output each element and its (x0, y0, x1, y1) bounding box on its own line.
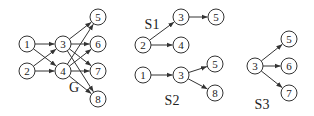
node-label: 3 (178, 11, 184, 23)
node-label: 3 (252, 60, 258, 72)
node-label: 3 (178, 69, 184, 81)
node-label: 5 (286, 33, 292, 45)
node-label: 3 (60, 38, 66, 50)
node-label: 5 (213, 11, 219, 23)
node-label: 4 (178, 39, 184, 51)
node-label: 4 (60, 65, 66, 77)
node-g-3: 3 (55, 36, 71, 52)
graph-g: 12345678G (19, 9, 106, 107)
node-label: 5 (212, 58, 218, 70)
node-g-2: 2 (19, 63, 35, 79)
graph-diagram: 12345678G 2345S1 1358S2 3567S3 (0, 0, 314, 116)
graph-label-g: G (69, 80, 79, 95)
edge-s3-3-5 (261, 44, 282, 61)
edge-g-3-5 (69, 22, 91, 39)
node-g-6: 6 (90, 36, 106, 52)
node-label: 5 (95, 11, 101, 23)
node-label: 2 (24, 65, 30, 77)
node-g-7: 7 (90, 63, 106, 79)
node-s3-7: 7 (281, 85, 297, 101)
node-label: 8 (95, 93, 101, 105)
node-label: 2 (140, 39, 146, 51)
subgraph-s1: 2345S1 (135, 9, 224, 53)
graph-label-s3: S3 (255, 97, 270, 112)
edge-s3-3-7 (261, 71, 282, 88)
node-label: 6 (286, 60, 292, 72)
node-s2-3: 3 (173, 67, 189, 83)
diagram-canvas: 12345678G 2345S1 1358S2 3567S3 (0, 0, 314, 116)
subgraph-s3: 3567S3 (247, 31, 297, 112)
node-g-8: 8 (90, 91, 106, 107)
node-label: 7 (95, 65, 101, 77)
node-label: 1 (140, 69, 146, 81)
node-label: 8 (212, 87, 218, 99)
node-g-1: 1 (19, 36, 35, 52)
node-s3-6: 6 (281, 58, 297, 74)
node-s1-3: 3 (173, 9, 189, 25)
graph-label-s1: S1 (145, 17, 160, 32)
node-s3-3: 3 (247, 58, 263, 74)
node-s3-5: 5 (281, 31, 297, 47)
edge-s2-3-5 (189, 67, 207, 73)
node-s1-4: 4 (173, 37, 189, 53)
node-label: 7 (286, 87, 292, 99)
edge-s2-3-8 (188, 79, 207, 89)
node-s2-8: 8 (207, 85, 223, 101)
graph-label-s2: S2 (165, 93, 180, 108)
node-g-4: 4 (55, 63, 71, 79)
node-s2-5: 5 (207, 56, 223, 72)
node-s1-5: 5 (208, 9, 224, 25)
node-g-5: 5 (90, 9, 106, 25)
node-label: 6 (95, 38, 101, 50)
subgraph-s2: 1358S2 (135, 56, 223, 108)
node-label: 1 (24, 38, 30, 50)
node-s1-2: 2 (135, 37, 151, 53)
node-s2-1: 1 (135, 67, 151, 83)
